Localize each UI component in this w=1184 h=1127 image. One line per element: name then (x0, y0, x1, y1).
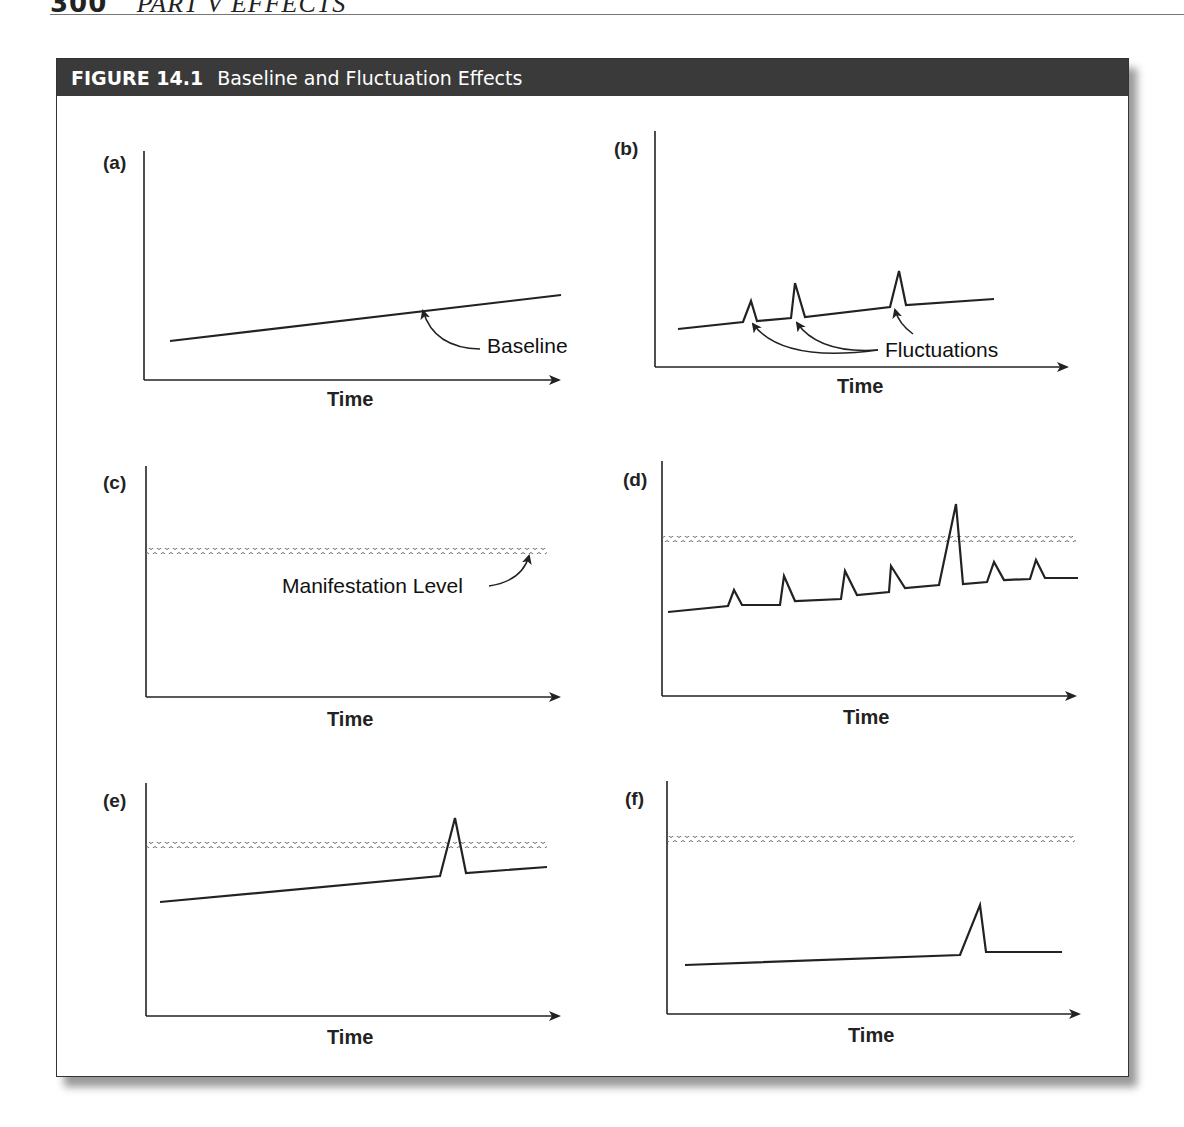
figure-box: FIGURE 14.1 Baseline and Fluctuation Eff… (56, 58, 1129, 1077)
fluctuation-line (160, 818, 547, 902)
x-axis-title: Time (848, 1024, 894, 1046)
manifestation-level-line (662, 536, 1076, 542)
running-head: 300 PART V EFFECTS (50, 0, 346, 19)
annotation-label: Fluctuations (885, 338, 998, 361)
panel-label: (e) (103, 790, 126, 811)
x-axis-title: Time (327, 1026, 373, 1048)
annotation-arrow (489, 556, 529, 586)
panel-e: (e) Time (103, 783, 559, 1048)
section-label: EFFECTS (231, 0, 346, 18)
panel-a: (a) Baseline Time (103, 151, 568, 410)
fluctuation-line (678, 271, 994, 329)
panel-label: (c) (103, 472, 126, 493)
x-axis-title: Time (843, 706, 889, 728)
x-axis-title: Time (837, 375, 883, 397)
part-label: PART V (137, 0, 224, 18)
annotation-arrow (423, 311, 480, 349)
panel-label: (d) (623, 469, 647, 490)
manifestation-level-line (667, 836, 1075, 842)
panel-label: (b) (614, 138, 638, 159)
annotation-label: Baseline (487, 334, 568, 357)
annotation-arrow (895, 310, 913, 334)
annotation-arrow (753, 324, 878, 353)
panel-b: (b) Fluctuations Time (614, 131, 1067, 397)
fluctuation-line (685, 905, 1062, 965)
panel-c: (c) Manifestation Level Time (103, 466, 559, 730)
panel-label: (f) (625, 788, 644, 809)
page-number: 300 (50, 0, 107, 18)
panel-f: (f) Time (625, 781, 1079, 1046)
manifestation-level-line (146, 548, 547, 554)
x-axis-title: Time (327, 388, 373, 410)
manifestation-level-line (146, 842, 547, 848)
annotation-arrow (797, 323, 878, 350)
x-axis-title: Time (327, 708, 373, 730)
header-rule (50, 14, 1184, 15)
fluctuation-line (668, 504, 1078, 612)
annotation-label: Manifestation Level (282, 574, 463, 597)
panel-label: (a) (103, 152, 126, 173)
panel-d: (d) Time (623, 461, 1078, 728)
figure-panels: (a) Baseline Time (b) Fluctuations Time … (57, 59, 1128, 1076)
